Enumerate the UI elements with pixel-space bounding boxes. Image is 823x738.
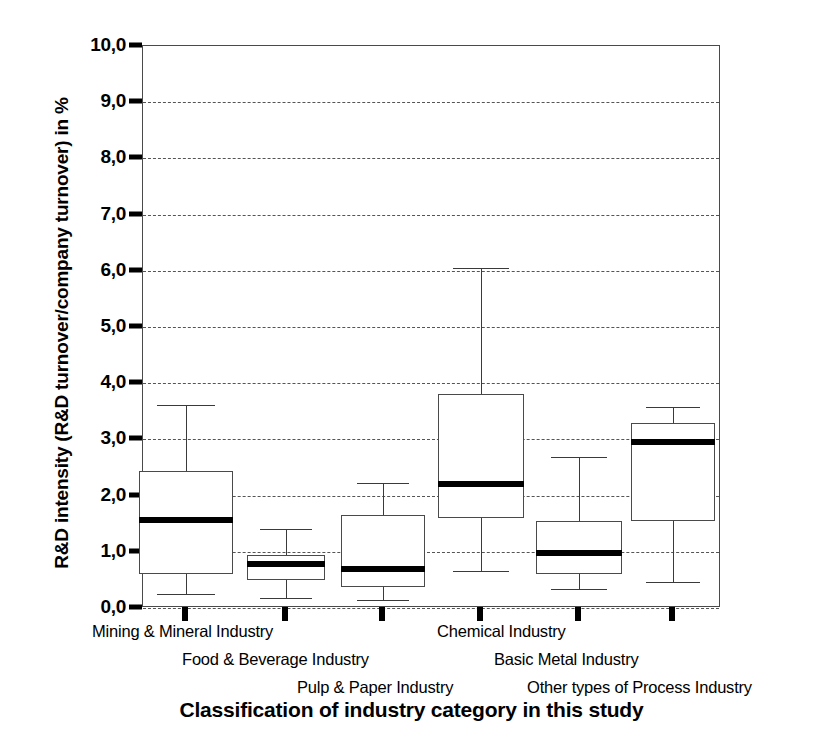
x-axis-category-label: Mining & Mineral Industry: [92, 622, 273, 641]
y-axis-tick-label: 8,0: [54, 146, 126, 168]
lower-whisker-cap: [357, 600, 409, 601]
median-line: [341, 566, 425, 572]
lower-whisker-line: [673, 521, 674, 582]
median-line: [438, 481, 524, 487]
gridline: [143, 608, 719, 609]
y-axis-tick-label: 2,0: [54, 484, 126, 506]
box-plot-item: [341, 46, 425, 606]
y-axis-tick-label: 10,0: [54, 34, 126, 56]
x-axis-tick-mark: [282, 607, 288, 621]
lower-whisker-cap: [157, 594, 215, 595]
interquartile-box: [341, 515, 425, 586]
lower-whisker-line: [186, 574, 187, 594]
x-axis-category-label: Other types of Process Industry: [527, 678, 752, 697]
y-axis-tick-label: 0,0: [54, 596, 126, 618]
upper-whisker-cap: [453, 268, 509, 269]
median-line: [536, 550, 622, 556]
upper-whisker-cap: [260, 529, 312, 530]
x-axis-category-label: Pulp & Paper Industry: [297, 678, 453, 697]
lower-whisker-line: [579, 574, 580, 589]
x-axis-title: Classification of industry category in t…: [0, 698, 823, 722]
y-axis-tick-label: 6,0: [54, 259, 126, 281]
x-axis-tick-mark: [379, 607, 385, 621]
upper-whisker-line: [186, 405, 187, 471]
upper-whisker-cap: [646, 407, 700, 408]
lower-whisker-cap: [453, 571, 509, 572]
upper-whisker-cap: [551, 457, 607, 458]
y-axis-tick-label: 3,0: [54, 427, 126, 449]
upper-whisker-line: [579, 457, 580, 521]
x-axis-tick-mark: [182, 607, 188, 621]
x-axis-tick-mark: [575, 607, 581, 621]
median-line: [247, 561, 325, 567]
lower-whisker-cap: [260, 598, 312, 599]
lower-whisker-line: [481, 518, 482, 571]
x-axis-category-label: Food & Beverage Industry: [182, 650, 369, 669]
y-axis-tick-label: 1,0: [54, 540, 126, 562]
upper-whisker-cap: [157, 405, 215, 406]
y-axis-tick-label: 9,0: [54, 90, 126, 112]
upper-whisker-line: [481, 268, 482, 394]
boxplot-figure: R&D intensity (R&D turnover/company turn…: [0, 0, 823, 738]
box-plot-item: [139, 46, 233, 606]
lower-whisker-line: [383, 587, 384, 600]
x-axis-category-label: Basic Metal Industry: [494, 650, 639, 669]
lower-whisker-cap: [646, 582, 700, 583]
lower-whisker-line: [286, 580, 287, 599]
y-axis-tick-label: 7,0: [54, 203, 126, 225]
median-line: [139, 517, 233, 523]
x-axis-tick-mark: [477, 607, 483, 621]
y-axis-tick-label: 5,0: [54, 315, 126, 337]
box-plot-item: [247, 46, 325, 606]
interquartile-box: [247, 555, 325, 580]
upper-whisker-cap: [357, 483, 409, 484]
median-line: [631, 439, 715, 445]
x-axis-tick-mark: [669, 607, 675, 621]
interquartile-box: [631, 423, 715, 521]
plot-area: [142, 45, 720, 607]
lower-whisker-cap: [551, 589, 607, 590]
box-plot-item: [631, 46, 715, 606]
interquartile-box: [536, 521, 622, 574]
upper-whisker-line: [286, 529, 287, 554]
upper-whisker-line: [673, 407, 674, 422]
x-axis-category-label: Chemical Industry: [437, 622, 566, 641]
y-axis-tick-label: 4,0: [54, 371, 126, 393]
upper-whisker-line: [383, 483, 384, 516]
box-plot-item: [536, 46, 622, 606]
box-plot-item: [438, 46, 524, 606]
interquartile-box: [438, 394, 524, 518]
